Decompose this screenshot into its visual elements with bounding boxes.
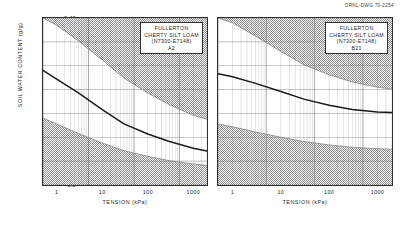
lower-shaded-region bbox=[218, 124, 392, 185]
drawing-number-label: ORNL-DWG 70-2254 bbox=[345, 3, 394, 8]
panel-b21: FULLERTON CHERTY SILT LOAM (N7300-E7148)… bbox=[217, 17, 393, 186]
legend-box-a2: FULLERTON CHERTY SILT LOAM (N7300-E7148)… bbox=[140, 22, 203, 54]
legend-box-b21: FULLERTON CHERTY SILT LOAM (N7300-E7148)… bbox=[325, 22, 388, 54]
legend-soil-series: FULLERTON bbox=[329, 25, 384, 32]
panel-a2: FULLERTON CHERTY SILT LOAM (N7300-E7148)… bbox=[42, 17, 208, 186]
figure-root: ORNL-DWG 70-2254 SOIL WATER CONTENT (g/g… bbox=[0, 0, 400, 226]
x-tick-label: 1000 bbox=[186, 189, 200, 195]
legend-site-coordinates: (N7300-E7148) bbox=[329, 38, 384, 45]
legend-horizon: B21 bbox=[329, 45, 384, 52]
x-tick-label: 1 bbox=[231, 189, 234, 195]
x-tick-label: 100 bbox=[143, 189, 153, 195]
x-axis-title: TENSION (kPa) bbox=[103, 199, 148, 205]
x-tick-label: 100 bbox=[324, 189, 334, 195]
legend-horizon: A2 bbox=[144, 45, 199, 52]
x-tick-label: 10 bbox=[99, 189, 106, 195]
legend-soil-series: FULLERTON bbox=[144, 25, 199, 32]
x-tick-label: 1 bbox=[55, 189, 58, 195]
legend-soil-texture: CHERTY SILT LOAM bbox=[144, 32, 199, 39]
legend-site-coordinates: (N7300-E7148) bbox=[144, 38, 199, 45]
x-axis-title: TENSION (kPa) bbox=[283, 199, 328, 205]
lower-shaded-region bbox=[43, 118, 207, 185]
y-axis-title: SOIL WATER CONTENT (g/g) bbox=[17, 0, 23, 135]
legend-soil-texture: CHERTY SILT LOAM bbox=[329, 32, 384, 39]
x-tick-label: 1000 bbox=[371, 189, 385, 195]
x-tick-label: 10 bbox=[277, 189, 284, 195]
